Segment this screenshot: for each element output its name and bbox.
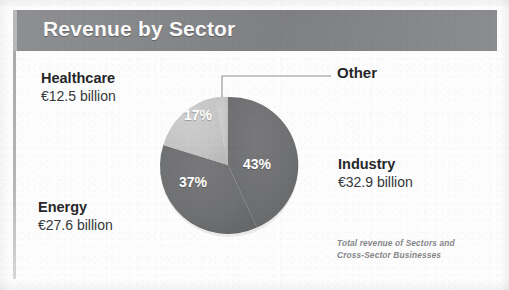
slice-label-industry: 43% — [243, 156, 271, 172]
callout-energy: Energy €27.6 billion — [38, 199, 113, 234]
other-leader-line — [222, 76, 331, 97]
callout-energy-value: €27.6 billion — [38, 216, 113, 234]
callout-healthcare: Healthcare €12.5 billion — [41, 70, 116, 105]
slice-label-healthcare: 17% — [184, 107, 212, 123]
chart-figure: Revenue by Sector 43 — [0, 0, 509, 290]
callout-other: Other — [337, 64, 377, 81]
callout-healthcare-name: Healthcare — [41, 70, 116, 87]
callout-healthcare-value: €12.5 billion — [41, 87, 116, 105]
footnote: Total revenue of Sectors and Cross-Secto… — [337, 238, 497, 261]
slice-label-energy: 37% — [179, 174, 207, 190]
footnote-line-2: Cross-Sector Businesses — [337, 250, 497, 262]
footnote-line-1: Total revenue of Sectors and — [337, 238, 497, 250]
callout-industry-name: Industry — [338, 156, 413, 173]
callout-industry: Industry €32.9 billion — [338, 156, 413, 191]
callout-other-name: Other — [337, 64, 377, 81]
callout-industry-value: €32.9 billion — [338, 173, 413, 191]
callout-energy-name: Energy — [38, 199, 113, 216]
